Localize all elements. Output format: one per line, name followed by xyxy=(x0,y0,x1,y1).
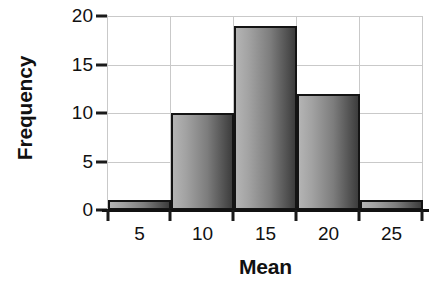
x-axis-title: Mean xyxy=(108,255,423,279)
x-tick-mark xyxy=(421,210,424,221)
x-axis-tick-marks xyxy=(108,210,423,222)
x-tick-mark xyxy=(169,210,172,221)
y-tick-label: 10 xyxy=(49,102,93,124)
y-axis-title: Frequency xyxy=(0,0,50,215)
histogram-chart: Frequency 20 15 10 5 0 xyxy=(0,0,445,295)
y-tick-label: 0 xyxy=(49,199,93,221)
y-tick-label: 20 xyxy=(49,5,93,27)
y-axis-tick-labels: 20 15 10 5 0 xyxy=(49,0,93,295)
y-tick-mark xyxy=(96,160,107,163)
x-tick-mark xyxy=(295,210,298,221)
y-tick-label: 15 xyxy=(49,54,93,76)
histogram-bar xyxy=(297,94,360,210)
plot-area xyxy=(108,16,423,210)
x-tick-label: 10 xyxy=(192,223,213,245)
x-tick-label: 15 xyxy=(255,223,276,245)
y-tick-label: 5 xyxy=(49,151,93,173)
y-tick-mark xyxy=(96,63,107,66)
bars-layer xyxy=(108,16,423,210)
y-tick-mark xyxy=(96,15,107,18)
y-tick-mark xyxy=(96,112,107,115)
x-tick-mark xyxy=(232,210,235,221)
histogram-bar xyxy=(171,113,234,210)
x-tick-label: 5 xyxy=(134,223,145,245)
x-tick-label: 20 xyxy=(318,223,339,245)
x-axis-tick-labels: 5 10 15 20 25 xyxy=(108,223,423,251)
x-tick-mark xyxy=(107,210,110,221)
x-tick-label: 25 xyxy=(381,223,402,245)
histogram-bar xyxy=(234,26,297,210)
x-tick-mark xyxy=(358,210,361,221)
y-axis-title-text: Frequency xyxy=(13,55,37,159)
